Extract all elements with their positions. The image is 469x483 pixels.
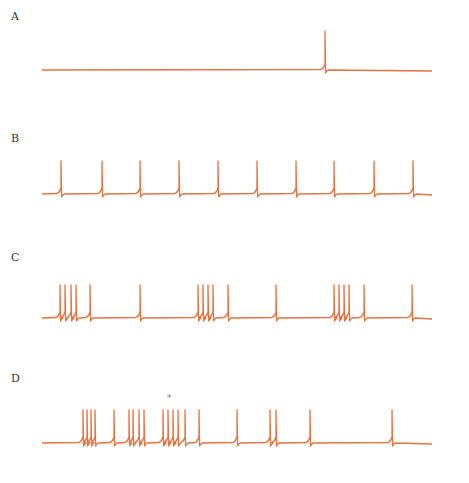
trace-c [42,285,432,321]
trace-a [42,31,432,73]
trace-d [42,410,432,446]
voltage-traces [0,0,469,483]
trace-b [42,161,432,197]
